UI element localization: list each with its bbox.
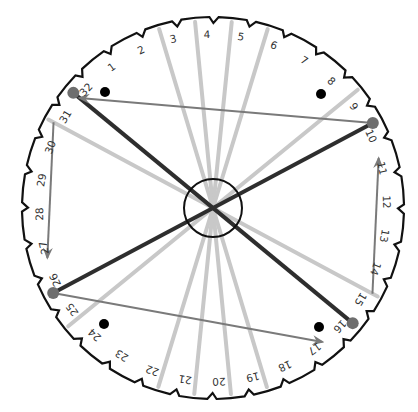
rim-label-6: 6	[269, 38, 280, 52]
rim-label-28: 28	[33, 207, 45, 221]
rim-label-21: 21	[177, 373, 192, 387]
rim-label-8: 8	[325, 74, 338, 87]
rim-label-20: 20	[212, 376, 226, 388]
rim-label-2: 2	[135, 43, 146, 57]
rim-label-14: 14	[368, 261, 384, 278]
rim-label-26: 26	[46, 271, 63, 288]
thick-lines	[53, 93, 373, 323]
circular-diagram: 1234567891011121314151617181920212223242…	[0, 0, 418, 412]
rim-label-4: 4	[203, 28, 210, 40]
diagram-canvas: 1234567891011121314151617181920212223242…	[0, 0, 418, 412]
rim-label-19: 19	[245, 370, 261, 385]
rim-label-1: 1	[105, 60, 117, 74]
rim-label-31: 31	[56, 108, 73, 126]
rim-label-3: 3	[168, 32, 177, 45]
rim-label-15: 15	[352, 291, 369, 309]
rim-label-12: 12	[381, 195, 393, 209]
rim-label-9: 9	[347, 100, 361, 112]
arrow-10-to-32	[80, 98, 373, 123]
rim-label-13: 13	[378, 228, 392, 243]
rim-label-23: 23	[113, 347, 131, 364]
rim-label-5: 5	[237, 30, 246, 43]
rim-label-18: 18	[276, 358, 293, 374]
marker-dot-1	[100, 87, 110, 97]
marker-dot-4	[314, 322, 324, 332]
rim-label-30: 30	[42, 139, 58, 156]
rim-label-22: 22	[144, 363, 161, 379]
marker-dot-3	[99, 319, 109, 329]
rim-label-7: 7	[299, 53, 311, 67]
rim-label-17: 17	[306, 340, 324, 358]
rim-label-29: 29	[34, 172, 48, 187]
rim-label-10: 10	[363, 127, 379, 144]
marker-dot-2	[316, 89, 326, 99]
rim-label-24: 24	[85, 326, 103, 344]
